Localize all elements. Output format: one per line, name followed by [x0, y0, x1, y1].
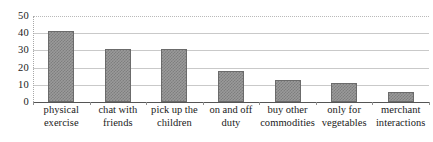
x-category-label-line: buy other — [259, 104, 316, 117]
y-tick-label: 40 — [0, 28, 29, 38]
x-category-label: only forvegetables — [316, 104, 373, 129]
x-category-label-line: on and off — [203, 104, 260, 117]
x-category-label: buy othercommodities — [259, 104, 316, 129]
y-tick-label: 30 — [0, 45, 29, 55]
y-axis-tick-labels: 01020304050 — [0, 0, 29, 142]
x-category-label-line: merchant — [372, 104, 429, 117]
x-category-label-line: physical — [33, 104, 90, 117]
x-category-label: pick up thechildren — [146, 104, 203, 129]
x-category-label-line: friends — [90, 117, 147, 130]
bar — [331, 83, 357, 102]
x-category-label-line: commodities — [259, 117, 316, 130]
x-category-label: on and offduty — [203, 104, 260, 129]
y-tick-label: 10 — [0, 80, 29, 90]
x-category-label: merchantinteractions — [372, 104, 429, 129]
x-category-label-line: only for — [316, 104, 373, 117]
plot-area — [33, 16, 429, 102]
x-category-label-line: pick up the — [146, 104, 203, 117]
x-category-label-line: children — [146, 117, 203, 130]
bars-layer — [33, 16, 429, 102]
x-category-label: physicalexercise — [33, 104, 90, 129]
x-category-label-line: duty — [203, 117, 260, 130]
bar — [48, 31, 74, 102]
bar — [105, 49, 131, 102]
x-category-label: chat withfriends — [90, 104, 147, 129]
bar — [275, 80, 301, 102]
bar — [388, 92, 414, 102]
y-tick-label: 50 — [0, 11, 29, 21]
bar-chart: 01020304050 physicalexercisechat withfri… — [0, 0, 433, 142]
x-category-label-line: exercise — [33, 117, 90, 130]
x-category-label-line: vegetables — [316, 117, 373, 130]
x-tick — [429, 102, 430, 105]
x-category-label-line: chat with — [90, 104, 147, 117]
bar — [161, 49, 187, 102]
y-tick-label: 0 — [0, 97, 29, 107]
y-tick-label: 20 — [0, 63, 29, 73]
x-axis-category-labels: physicalexercisechat withfriendspick up … — [33, 104, 429, 142]
bar — [218, 71, 244, 102]
x-category-label-line: interactions — [372, 117, 429, 130]
